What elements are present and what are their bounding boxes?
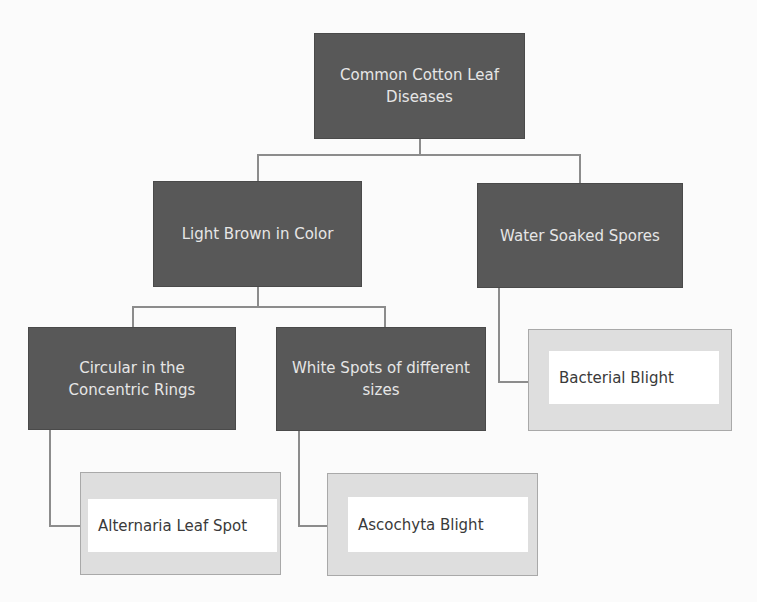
connector-to-bacterial-blight [498,381,528,383]
connector-white-spots-down [298,431,300,527]
connector-to-circular [132,306,134,327]
connector-to-light-brown [257,154,259,181]
connector-water-soaked-down [498,288,500,382]
leaf-label-bacterial-blight: Bacterial Blight [549,351,719,404]
connector-to-water-soaked [579,154,581,183]
leaf-bacterial-blight: Bacterial Blight [528,329,732,431]
leaf-ascochyta-blight: Ascochyta Blight [327,473,538,576]
connector-to-alternaria [49,525,80,527]
connector-circular-down [49,430,51,526]
leaf-label-ascochyta-blight: Ascochyta Blight [348,497,528,552]
node-light-brown-in-color: Light Brown in Color [153,181,362,287]
node-water-soaked-spores: Water Soaked Spores [477,183,683,288]
connector-level1-horizontal [257,154,581,156]
leaf-alternaria-leaf-spot: Alternaria Leaf Spot [80,472,281,575]
node-circular-concentric-rings: Circular in the Concentric Rings [28,327,236,430]
connector-level2-horizontal [132,306,386,308]
connector-root-down [419,139,421,155]
connector-to-white-spots [384,306,386,327]
node-white-spots-different-sizes: White Spots of different sizes [276,327,486,431]
connector-to-ascochyta [298,525,327,527]
connector-light-brown-down [257,287,259,307]
leaf-label-alternaria-leaf-spot: Alternaria Leaf Spot [88,499,277,552]
root-node: Common Cotton Leaf Diseases [314,33,525,139]
